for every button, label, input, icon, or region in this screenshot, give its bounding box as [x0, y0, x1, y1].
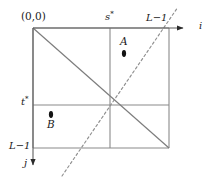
point-a-marker: [122, 50, 126, 57]
point-b-marker: [49, 111, 53, 118]
point-b-label: B: [47, 119, 55, 130]
origin-label: (0,0): [21, 11, 46, 22]
dashed-diagonal-line: [62, 7, 178, 176]
point-a-label: A: [120, 36, 128, 47]
j-axis-label: j: [24, 158, 27, 168]
limit-top-label: L−1: [146, 13, 167, 23]
split-column-label: s*: [105, 12, 114, 22]
split-row-star: *: [25, 95, 29, 103]
split-row-label: t*: [21, 97, 29, 107]
split-column-star: *: [110, 10, 114, 18]
i-axis-label: i: [199, 21, 202, 31]
figure-root: (0,0) s* L−1 i t* L−1 j A B: [0, 0, 216, 184]
diagram-canvas: [0, 0, 216, 184]
main-diagonal-line: [33, 28, 169, 148]
limit-left-label: L−1: [9, 141, 30, 151]
